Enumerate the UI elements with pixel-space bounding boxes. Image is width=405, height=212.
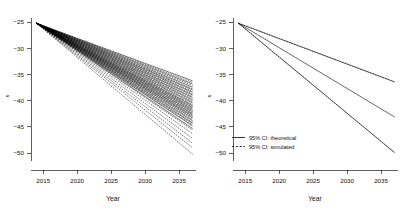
- right-x-ticks: 20152020202520302035: [238, 170, 388, 184]
- series-line-simulated-bound-04: [36, 23, 192, 91]
- left-axes: −25−30−35−40−45−50 20152020202520302035: [14, 18, 197, 184]
- series-line-theoretical-bound-10: [36, 23, 192, 105]
- y-tick-label: −35: [14, 71, 25, 78]
- series-line-simulated-bound-16: [36, 23, 192, 119]
- x-tick-label: 2025: [306, 177, 320, 184]
- left-y-axis-title: κ: [3, 94, 10, 98]
- y-tick-label: −30: [216, 45, 227, 52]
- y-tick-label: −50: [14, 149, 25, 156]
- left-plot-canvas: −25−30−35−40−45−50 20152020202520302035 …: [0, 0, 202, 212]
- right-plot-canvas: −25−30−35−40−45−50 20152020202520302035 …: [202, 0, 404, 212]
- x-tick-label: 2030: [340, 177, 354, 184]
- series-line-simulated-bound-17: [36, 23, 192, 122]
- right-axes: −25−30−35−40−45−50 20152020202520302035: [216, 18, 399, 184]
- right-x-axis-title: Year: [308, 195, 322, 202]
- series-line-simulated-outlier-01: [36, 23, 192, 138]
- x-tick-label: 2035: [172, 177, 186, 184]
- left-x-axis-title: Year: [106, 195, 120, 202]
- series-line-theoretical-bound-08: [36, 23, 192, 100]
- x-tick-label: 2015: [238, 177, 252, 184]
- right-y-ticks: −25−30−35−40−45−50: [216, 18, 234, 156]
- left-series-group: [36, 23, 192, 154]
- series-line-simulated-outlier-02: [36, 23, 192, 143]
- figure-two-panel-kappa-projection: −25−30−35−40−45−50 20152020202520302035 …: [0, 0, 405, 212]
- x-tick-label: 2020: [70, 177, 84, 184]
- y-tick-label: −45: [216, 123, 227, 130]
- panel-left-all-simulations: −25−30−35−40−45−50 20152020202520302035 …: [0, 0, 202, 212]
- x-tick-label: 2030: [138, 177, 152, 184]
- y-tick-label: −25: [216, 18, 227, 25]
- x-tick-label: 2015: [36, 177, 50, 184]
- series-line-simulated-bound-19: [36, 23, 192, 130]
- series-line-simulated-bound-03: [36, 23, 192, 88]
- series-line-simulated-bound-15: [36, 23, 192, 117]
- y-tick-label: −40: [216, 97, 227, 104]
- y-tick-label: −30: [14, 45, 25, 52]
- y-tick-label: −35: [216, 71, 227, 78]
- y-tick-label: −25: [14, 18, 25, 25]
- series-line-theoretical-bound-09: [36, 23, 192, 103]
- series-line-simulated-bound-02: [36, 23, 192, 85]
- y-tick-label: −45: [14, 123, 25, 130]
- legend: 95% CI: theoretical 95% CI: simulated: [232, 135, 296, 150]
- left-y-ticks: −25−30−35−40−45−50: [14, 18, 32, 156]
- legend-label-simulated: 95% CI: simulated: [249, 144, 294, 150]
- right-y-axis-title: κ: [205, 94, 212, 98]
- x-tick-label: 2025: [104, 177, 118, 184]
- series-line-central-projection: [238, 23, 394, 117]
- x-tick-label: 2035: [374, 177, 388, 184]
- series-line-simulated-bound-18: [36, 23, 192, 125]
- right-series-group: [238, 23, 394, 152]
- legend-label-theoretical: 95% CI: theoretical: [249, 135, 296, 141]
- panel-right-confidence-intervals: −25−30−35−40−45−50 20152020202520302035 …: [202, 0, 404, 212]
- left-x-ticks: 20152020202520302035: [36, 170, 186, 184]
- series-line-simulated-bound-20: [36, 23, 192, 134]
- series-line-theoretical-bound-07: [36, 23, 192, 97]
- y-tick-label: −40: [14, 97, 25, 104]
- x-tick-label: 2020: [272, 177, 286, 184]
- y-tick-label: −50: [216, 149, 227, 156]
